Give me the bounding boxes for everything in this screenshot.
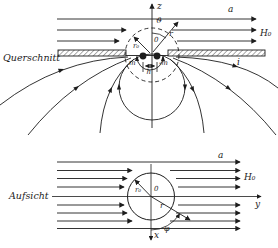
aufsicht-field-strength-label: H₀: [243, 172, 256, 182]
origin-label: 0: [154, 36, 159, 44]
aufsicht-origin-label: 0: [154, 185, 159, 193]
aufsicht-sphere-radius-label: r₀: [135, 186, 141, 194]
querschnitt-diagram: Querschnitt a H₀ z r ϑ r₀ 0: [0, 1, 278, 135]
sheet-right-segment: [168, 50, 265, 56]
field-arc-left-2: [28, 58, 131, 135]
arrowhead: [73, 86, 79, 91]
arrowhead: [225, 85, 231, 90]
field-arc-right-3: [176, 57, 278, 88]
sphere-radius-label: r₀: [133, 42, 139, 50]
aufsicht-field-arrows: [57, 162, 240, 229]
querschnitt-field-strength-label: H₀: [259, 28, 272, 38]
arrowhead: [58, 69, 64, 73]
aufsicht-section-label: Aufsicht: [8, 190, 49, 201]
arrowhead: [108, 87, 112, 93]
physics-figure: Querschnitt a H₀ z r ϑ r₀ 0: [0, 0, 278, 248]
querschnitt-region-label: a: [228, 4, 233, 14]
arrowhead: [190, 86, 194, 92]
aufsicht-diagram: Aufsicht a H₀ y x 0: [8, 150, 261, 240]
z-axis-label: z: [156, 1, 162, 11]
y-axis-label: y: [254, 199, 261, 209]
azimuth-angle-label: φ: [164, 224, 170, 233]
x-axis-label: x: [154, 230, 159, 240]
field-arc-right-2: [173, 58, 276, 135]
sheet-left-segment: [58, 50, 126, 56]
arrowhead: [117, 84, 121, 90]
figure-canvas: Querschnitt a H₀ z r ϑ r₀ 0: [0, 0, 278, 248]
querschnitt-section-label: Querschnitt: [3, 52, 60, 63]
polar-angle-label: ϑ: [156, 16, 162, 25]
aufsicht-radius-vector-arrow: [151, 197, 190, 221]
aufsicht-radius-vector-label: r: [160, 201, 165, 210]
aufsicht-region-label: a: [218, 150, 223, 160]
pole-distance-label: h: [147, 68, 152, 76]
arrowhead: [183, 85, 187, 91]
induced-field-label: i: [237, 57, 240, 67]
